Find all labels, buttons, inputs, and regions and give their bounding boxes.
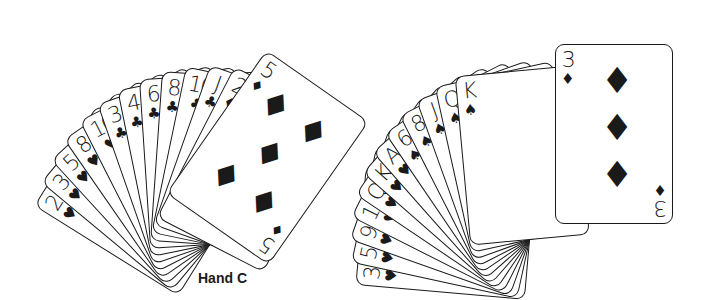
hand-c-label: Hand C bbox=[198, 270, 247, 286]
card-index: K♠ bbox=[461, 79, 478, 118]
diamond-pip-icon: ♦ bbox=[601, 110, 633, 146]
suit-icon: ♦ bbox=[561, 72, 574, 87]
suit-icon: ♠ bbox=[463, 102, 478, 118]
card-index: 3♦ bbox=[561, 49, 574, 87]
diamond-pip-icon: ♦ bbox=[202, 152, 249, 200]
card-rank: 6 bbox=[145, 83, 160, 106]
card-rank: K bbox=[461, 79, 476, 102]
card-rank: 3 bbox=[653, 197, 667, 219]
playing-card: 3♦3♦♦♦♦ bbox=[555, 44, 673, 224]
diamond-pip-icon: ♦ bbox=[289, 108, 336, 156]
card-rank: 3 bbox=[561, 49, 574, 71]
diamond-pip-icon: ♦ bbox=[601, 157, 633, 193]
suit-icon: ♦ bbox=[268, 219, 288, 239]
card-index-bottom: 3♦ bbox=[653, 182, 667, 219]
suit-icon: ♦ bbox=[653, 182, 667, 197]
diamond-pip-icon: ♦ bbox=[246, 130, 293, 178]
diamond-pip-icon: ♦ bbox=[601, 63, 633, 99]
